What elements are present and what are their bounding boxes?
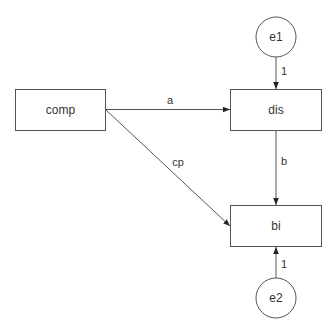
node-comp[interactable]: comp — [16, 90, 106, 131]
edge-e2-bi-label: 1 — [281, 258, 287, 270]
node-e2-label: e2 — [269, 291, 283, 305]
node-dis[interactable]: dis — [231, 90, 322, 131]
edge-a[interactable]: a — [106, 94, 230, 110]
node-dis-label: dis — [268, 103, 283, 117]
edge-b[interactable]: b — [276, 131, 287, 206]
node-e1-label: e1 — [269, 30, 283, 44]
edge-cp-label: cp — [172, 156, 184, 168]
node-e1[interactable]: e1 — [256, 17, 296, 57]
edge-cp[interactable]: cp — [106, 110, 230, 226]
node-bi[interactable]: bi — [231, 206, 322, 247]
path-diagram: comp dis bi e1 e2 a cp b 1 1 — [0, 0, 335, 332]
edge-e1-dis-label: 1 — [281, 65, 287, 77]
node-comp-label: comp — [46, 103, 76, 117]
edge-cp-arrow — [106, 110, 230, 226]
edge-e1-dis[interactable]: 1 — [276, 57, 287, 89]
edge-b-label: b — [281, 155, 287, 167]
node-e2[interactable]: e2 — [256, 278, 296, 318]
node-bi-label: bi — [271, 219, 280, 233]
edge-a-label: a — [167, 94, 174, 106]
edge-e2-bi[interactable]: 1 — [276, 247, 287, 278]
